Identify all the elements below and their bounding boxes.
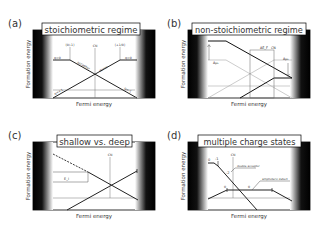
double-acceptor-label: double acceptor bbox=[237, 164, 261, 168]
transition-label: (+1/0) bbox=[115, 43, 125, 47]
panel-title: multiple charge states bbox=[204, 137, 296, 147]
figure: (a) stoichiometric regime Formation ener… bbox=[0, 0, 323, 225]
charge-label: -1 bbox=[215, 157, 219, 161]
amphoteric-defect-label: amphoteric defect bbox=[262, 177, 289, 181]
transition-label: (0/-1) bbox=[66, 43, 75, 47]
cn-label: CN bbox=[271, 46, 276, 50]
x-axis-label: Fermi energy bbox=[231, 213, 268, 220]
charge-label: 0 bbox=[208, 158, 210, 162]
panel-a: (a) stoichiometric regime Formation ener… bbox=[8, 18, 155, 108]
panel-letter: (b) bbox=[167, 18, 181, 29]
y-axis-label: Formation energy bbox=[180, 39, 187, 88]
valence-band bbox=[33, 142, 53, 210]
panel-title: stoichiometric regime bbox=[45, 25, 138, 35]
delta-ef-label: ΔE_F bbox=[260, 46, 268, 50]
charge-label: q=0 bbox=[54, 56, 61, 60]
cn-label: CN bbox=[93, 44, 98, 48]
x-axis-label: Fermi energy bbox=[231, 101, 268, 108]
panel-letter: (c) bbox=[8, 130, 21, 141]
panel-b: (b) non-stoichiometric regime Formation … bbox=[167, 18, 310, 108]
panel-letter: (a) bbox=[8, 18, 22, 29]
charge-label: 0 bbox=[224, 185, 226, 189]
panel-title: shallow vs. deep bbox=[59, 137, 130, 147]
valence-band bbox=[188, 30, 208, 98]
charge-label: 0 bbox=[248, 185, 250, 189]
y-axis-label: Formation energy bbox=[180, 151, 187, 200]
delta-mu-label: Δμ₂ bbox=[283, 57, 289, 61]
panel-c: (c) shallow vs. deep Formation energy Fe… bbox=[8, 130, 155, 220]
conduction-band bbox=[290, 142, 310, 210]
charge-label: q=0 bbox=[125, 56, 132, 60]
ei-label: E_i bbox=[64, 177, 69, 181]
charge-label: -2 bbox=[226, 171, 230, 175]
panel-letter: (d) bbox=[167, 130, 181, 141]
valence-band bbox=[188, 142, 208, 210]
cn-label: CN bbox=[108, 153, 113, 157]
y-axis-label: Formation energy bbox=[25, 151, 32, 200]
x-axis-label: Fermi energy bbox=[76, 101, 113, 108]
conduction-band bbox=[135, 30, 155, 98]
cn-label: CN bbox=[231, 153, 236, 157]
valence-band bbox=[33, 30, 53, 98]
y-axis-label: Formation energy bbox=[25, 39, 32, 88]
delta-mu-label: Δμ₁ bbox=[213, 61, 219, 65]
x-axis-label: Fermi energy bbox=[76, 213, 113, 220]
conduction-band bbox=[290, 30, 310, 98]
panel-title: non-stoichiometric regime bbox=[195, 25, 303, 35]
panel-d: (d) multiple charge states Formation ene… bbox=[167, 130, 310, 220]
